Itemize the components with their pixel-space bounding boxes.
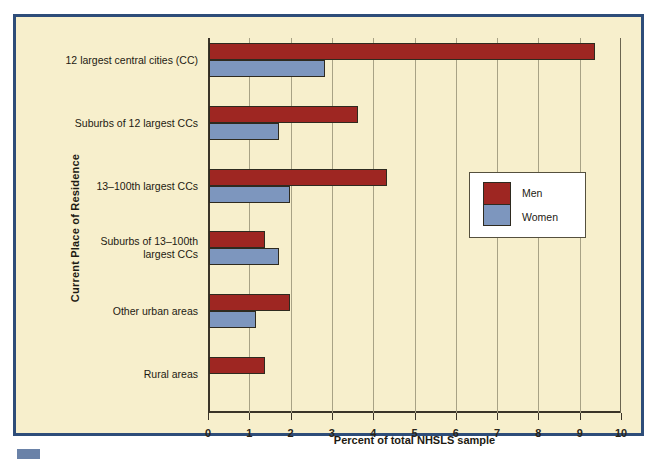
bar-men bbox=[209, 357, 265, 374]
x-tick bbox=[538, 413, 539, 420]
y-axis-title: Current Place of Residence bbox=[66, 17, 84, 439]
category-label: 12 largest central cities (CC) bbox=[66, 54, 198, 67]
gridline bbox=[415, 38, 416, 413]
category-label: Suburbs of 12 largest CCs bbox=[75, 116, 198, 129]
bar-women bbox=[209, 60, 325, 77]
x-tick bbox=[291, 413, 292, 420]
x-tick bbox=[497, 413, 498, 420]
bar-men bbox=[209, 169, 387, 186]
x-tick bbox=[621, 413, 622, 420]
bar-men bbox=[209, 106, 358, 123]
legend-label-men: Men bbox=[522, 187, 542, 199]
x-tick bbox=[456, 413, 457, 420]
legend-label-women: Women bbox=[522, 211, 558, 223]
bar-women bbox=[209, 123, 279, 140]
x-tick bbox=[332, 413, 333, 420]
gridline bbox=[456, 38, 457, 413]
x-tick bbox=[208, 413, 209, 420]
category-label: Suburbs of 13–100th largest CCs bbox=[101, 235, 199, 261]
figure-frame: Current Place of Residence 012345678910 … bbox=[13, 14, 644, 436]
x-tick bbox=[580, 413, 581, 420]
bar-women bbox=[209, 186, 290, 203]
corner-mark bbox=[17, 449, 40, 459]
category-label: 13–100th largest CCs bbox=[96, 179, 198, 192]
legend-swatch-men bbox=[483, 182, 511, 204]
bar-women bbox=[209, 311, 256, 328]
gridline bbox=[332, 38, 333, 413]
category-label: Other urban areas bbox=[113, 305, 198, 318]
x-tick bbox=[415, 413, 416, 420]
gridline bbox=[373, 38, 374, 413]
bar-women bbox=[209, 248, 279, 265]
y-axis-title-text: Current Place of Residence bbox=[69, 154, 81, 302]
x-tick bbox=[249, 413, 250, 420]
plot-right-border bbox=[620, 38, 621, 413]
category-label: Rural areas bbox=[144, 368, 198, 381]
legend-swatch-women bbox=[483, 204, 511, 226]
x-axis-title: Percent of total NHSLS sample bbox=[208, 434, 621, 446]
x-tick bbox=[373, 413, 374, 420]
bar-men bbox=[209, 294, 290, 311]
gridline bbox=[291, 38, 292, 413]
bar-men bbox=[209, 231, 265, 248]
legend-swatches bbox=[483, 182, 511, 226]
legend: Men Women bbox=[469, 172, 586, 238]
bar-men bbox=[209, 43, 595, 60]
